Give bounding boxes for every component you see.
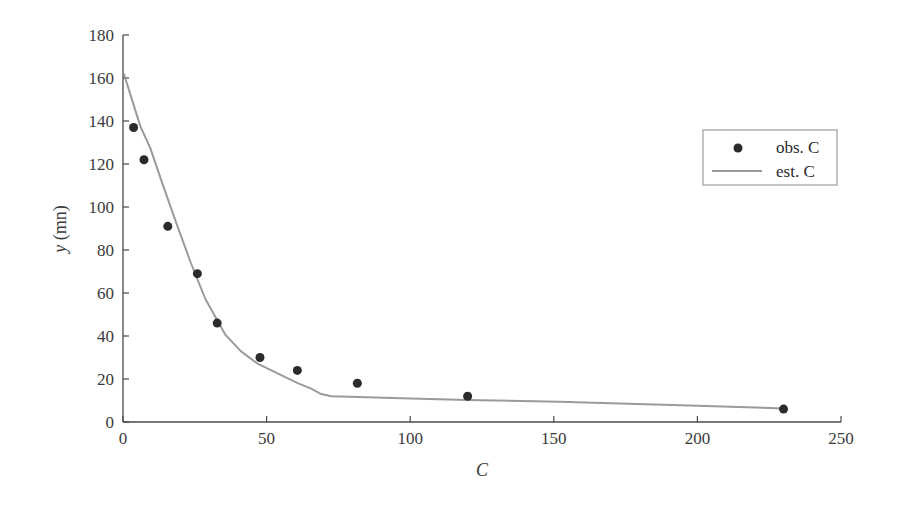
axes [123,35,841,422]
legend: obs. C est. C [703,130,837,185]
obs-c-point [255,353,264,362]
obs-c-points [129,123,788,414]
x-tick-label: 50 [258,429,275,448]
x-tick-label: 100 [397,429,423,448]
y-tick-label: 100 [89,198,115,217]
obs-c-point [163,222,172,231]
y-axis-label-var: y [50,245,70,255]
y-tick-label: 0 [106,413,115,432]
obs-c-point [779,405,788,414]
obs-c-point [129,123,138,132]
est-c-line [124,74,784,409]
obs-c-point [293,366,302,375]
legend-label-obs: obs. C [776,138,819,157]
y-axis-label-unit: (mn) [50,205,71,245]
ticks: 050100150200250020406080100120140160180 [89,26,854,448]
y-tick-label: 180 [89,26,115,45]
y-tick-label: 40 [97,327,114,346]
obs-c-point [463,392,472,401]
x-tick-label: 150 [541,429,567,448]
y-tick-label: 60 [97,284,114,303]
x-axis-label: C [476,460,489,480]
obs-c-point [213,319,222,328]
y-axis-label: y (mn) [50,205,71,255]
chart: 050100150200250020406080100120140160180 … [0,0,900,507]
x-tick-label: 200 [685,429,711,448]
legend-dot-icon [734,144,743,153]
svg-text:y (mn): y (mn) [50,205,71,255]
obs-c-point [139,155,148,164]
y-tick-label: 120 [89,155,115,174]
y-tick-label: 80 [97,241,114,260]
obs-c-point [193,269,202,278]
x-tick-label: 0 [119,429,128,448]
est-c-curve [124,74,784,409]
y-tick-label: 140 [89,112,115,131]
x-tick-label: 250 [828,429,854,448]
obs-c-point [353,379,362,388]
y-tick-label: 20 [97,370,114,389]
legend-label-est: est. C [776,162,815,181]
y-tick-label: 160 [89,69,115,88]
